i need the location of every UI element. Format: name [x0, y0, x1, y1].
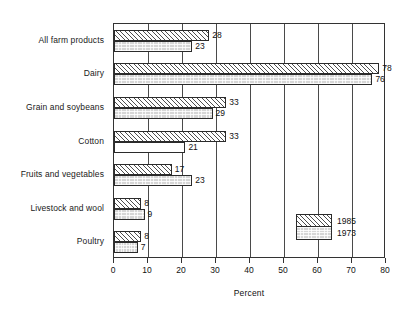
gridline: [284, 24, 285, 257]
x-axis-title: Percent: [113, 288, 385, 298]
bar-value-label: 28: [212, 30, 221, 41]
x-axis-tick: [283, 258, 284, 263]
bar-value-label: 7: [141, 242, 146, 253]
x-axis-tick-label: 20: [166, 265, 196, 275]
bar-1973: [114, 41, 192, 52]
x-axis-tick-label: 70: [336, 265, 366, 275]
bar-value-label: 21: [188, 142, 197, 153]
category-label: Fruits and vegetables: [21, 169, 104, 179]
bar-1985: [114, 198, 141, 209]
bar-1973: [114, 108, 213, 119]
bar-1985: [114, 164, 172, 175]
bar-value-label: 76: [375, 74, 384, 85]
plot-area: 28237876332933211723898719851973: [113, 23, 385, 258]
bar-chart: All farm productsDairyGrain and soybeans…: [0, 0, 407, 318]
x-axis-tick: [147, 258, 148, 263]
x-axis-tick-label: 40: [234, 265, 264, 275]
category-label: All farm products: [39, 35, 104, 45]
bar-1973: [114, 175, 192, 186]
bar-1985: [114, 97, 226, 108]
bar-value-label: 33: [229, 131, 238, 142]
bar-1985: [114, 131, 226, 142]
category-label: Livestock and wool: [30, 203, 104, 213]
x-axis-tick-label: 0: [98, 265, 128, 275]
bar-1973: [114, 209, 145, 220]
bar-value-label: 78: [382, 63, 391, 74]
bar-value-label: 9: [148, 209, 153, 220]
x-axis-tick: [181, 258, 182, 263]
category-label: Dairy: [84, 68, 104, 78]
gridline: [250, 24, 251, 257]
x-axis-tick-label: 10: [132, 265, 162, 275]
legend-label-1985: 1985: [337, 215, 356, 227]
bar-value-label: 8: [144, 231, 149, 242]
x-axis-tick: [249, 258, 250, 263]
category-label: Cotton: [78, 136, 104, 146]
x-axis-tick: [317, 258, 318, 263]
bar-1985: [114, 63, 379, 74]
bar-1973: [114, 142, 185, 153]
legend-label-1973: 1973: [337, 227, 356, 239]
category-label: Grain and soybeans: [26, 102, 104, 112]
bar-1973: [114, 242, 138, 253]
x-axis-tick-label: 80: [370, 265, 400, 275]
bar-1985: [114, 30, 209, 41]
category-axis-labels: All farm productsDairyGrain and soybeans…: [0, 23, 108, 258]
bar-value-label: 8: [144, 198, 149, 209]
x-axis-tick-label: 30: [200, 265, 230, 275]
x-axis-tick: [351, 258, 352, 263]
x-axis-tick: [113, 258, 114, 263]
legend: 19851973: [296, 214, 332, 240]
legend-swatch-1973: [297, 227, 331, 239]
x-axis-tick: [215, 258, 216, 263]
x-axis-tick: [385, 258, 386, 263]
bar-value-label: 23: [195, 41, 204, 52]
bar-value-label: 33: [229, 97, 238, 108]
legend-swatch-1985: [297, 215, 331, 227]
bar-value-label: 23: [195, 175, 204, 186]
bar-value-label: 29: [216, 108, 225, 119]
x-axis-tick-label: 50: [268, 265, 298, 275]
category-label: Poultry: [77, 236, 104, 246]
bar-value-label: 17: [175, 164, 184, 175]
bar-1985: [114, 231, 141, 242]
x-axis-ticks: [113, 258, 385, 264]
x-axis-tick-label: 60: [302, 265, 332, 275]
bar-1973: [114, 74, 372, 85]
